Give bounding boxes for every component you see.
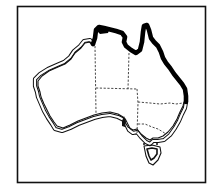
border-sa-east: [137, 89, 138, 134]
island-dot: [143, 143, 145, 145]
island-dot: [156, 143, 158, 145]
border-nt-qld: [128, 53, 129, 89]
australia-map: [0, 0, 221, 189]
border-nsw-vic: [138, 124, 166, 134]
border-qld-nsw: [138, 102, 183, 104]
state-borders: [95, 46, 183, 134]
coastline-thick-north-east: [93, 25, 186, 102]
border-wa: [95, 46, 96, 113]
map-figure: [0, 0, 221, 189]
border-nt-sa: [96, 88, 137, 89]
tasmania-inner: [147, 148, 157, 160]
map-frame: [18, 7, 206, 183]
